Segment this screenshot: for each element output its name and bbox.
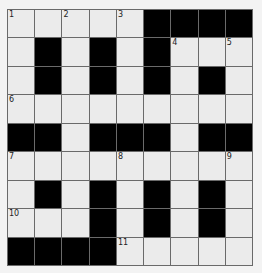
black-square [35,67,61,94]
black-square [144,181,170,208]
answer-cell[interactable]: 2 [62,10,88,37]
black-square [199,181,225,208]
answer-cell[interactable] [62,95,88,122]
answer-cell[interactable]: 5 [226,38,252,65]
clue-number: 10 [9,209,19,219]
clue-number: 9 [227,152,232,162]
answer-cell[interactable] [62,38,88,65]
answer-cell[interactable] [117,181,143,208]
answer-cell[interactable] [199,38,225,65]
black-square [35,238,61,265]
answer-cell[interactable] [171,124,197,151]
answer-cell[interactable] [144,238,170,265]
answer-cell[interactable] [62,67,88,94]
answer-cell[interactable] [144,152,170,179]
answer-cell[interactable] [226,181,252,208]
black-square [199,10,225,37]
black-square [199,67,225,94]
black-square [226,124,252,151]
black-square [117,124,143,151]
answer-cell[interactable] [35,10,61,37]
black-square [199,209,225,236]
answer-cell[interactable]: 4 [171,38,197,65]
black-square [144,209,170,236]
answer-cell[interactable] [62,124,88,151]
answer-cell[interactable] [171,238,197,265]
clue-number: 4 [172,38,177,48]
black-square [35,124,61,151]
answer-cell[interactable] [90,152,116,179]
black-square [144,10,170,37]
answer-cell[interactable] [8,67,34,94]
answer-cell[interactable] [226,209,252,236]
answer-cell[interactable] [199,238,225,265]
crossword-grid: 1234567891011 [7,9,253,266]
answer-cell[interactable] [171,95,197,122]
answer-cell[interactable]: 10 [8,209,34,236]
answer-cell[interactable] [8,181,34,208]
answer-cell[interactable] [90,10,116,37]
black-square [35,181,61,208]
answer-cell[interactable] [171,209,197,236]
black-square [90,181,116,208]
black-square [90,238,116,265]
black-square [144,67,170,94]
answer-cell[interactable] [171,67,197,94]
answer-cell[interactable] [62,209,88,236]
clue-number: 8 [118,152,123,162]
answer-cell[interactable] [117,67,143,94]
answer-cell[interactable] [35,152,61,179]
answer-cell[interactable] [199,95,225,122]
answer-cell[interactable] [226,95,252,122]
clue-number: 7 [9,152,14,162]
black-square [62,238,88,265]
clue-number: 2 [63,10,68,20]
answer-cell[interactable] [62,152,88,179]
black-square [144,124,170,151]
black-square [199,124,225,151]
answer-cell[interactable] [144,95,170,122]
answer-cell[interactable]: 8 [117,152,143,179]
black-square [226,10,252,37]
answer-cell[interactable] [8,38,34,65]
answer-cell[interactable]: 9 [226,152,252,179]
answer-cell[interactable]: 6 [8,95,34,122]
clue-number: 5 [227,38,232,48]
black-square [8,238,34,265]
answer-cell[interactable] [226,67,252,94]
black-square [90,209,116,236]
answer-cell[interactable] [117,38,143,65]
black-square [35,38,61,65]
black-square [171,10,197,37]
answer-cell[interactable] [226,238,252,265]
clue-number: 11 [118,238,128,248]
clue-number: 3 [118,10,123,20]
clue-number: 1 [9,10,14,20]
answer-cell[interactable]: 1 [8,10,34,37]
answer-cell[interactable] [62,181,88,208]
answer-cell[interactable] [171,181,197,208]
answer-cell[interactable] [35,209,61,236]
answer-cell[interactable] [117,209,143,236]
answer-cell[interactable] [90,95,116,122]
answer-cell[interactable]: 7 [8,152,34,179]
clue-number: 6 [9,95,14,105]
black-square [144,38,170,65]
answer-cell[interactable] [117,95,143,122]
answer-cell[interactable]: 3 [117,10,143,37]
answer-cell[interactable] [171,152,197,179]
black-square [8,124,34,151]
answer-cell[interactable] [35,95,61,122]
black-square [90,38,116,65]
answer-cell[interactable]: 11 [117,238,143,265]
black-square [90,124,116,151]
black-square [90,67,116,94]
answer-cell[interactable] [199,152,225,179]
